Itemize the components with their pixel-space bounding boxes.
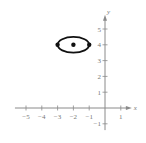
y-tick-label: 5 bbox=[98, 26, 102, 34]
y-tick-label: 3 bbox=[98, 57, 102, 65]
point-vertex-right bbox=[87, 43, 91, 47]
y-tick-label: 2 bbox=[98, 73, 102, 81]
x-tick-label: −2 bbox=[70, 113, 78, 121]
points bbox=[55, 43, 91, 47]
x-tick-label: −4 bbox=[38, 113, 46, 121]
tick-labels: −5−4−3−2−11−112345 bbox=[22, 26, 123, 129]
x-tick-label: 1 bbox=[119, 113, 123, 121]
x-axis-label: x bbox=[133, 104, 138, 112]
x-axis-arrow bbox=[126, 106, 132, 110]
x-tick-label: −3 bbox=[54, 113, 62, 121]
point-vertex-left bbox=[55, 43, 59, 47]
y-tick-label: −1 bbox=[94, 120, 102, 128]
y-axis-label: y bbox=[106, 8, 111, 16]
point-center bbox=[71, 43, 75, 47]
y-tick-label: 4 bbox=[98, 41, 102, 49]
x-tick-label: −1 bbox=[85, 113, 93, 121]
x-tick-label: −5 bbox=[22, 113, 30, 121]
chart: −5−4−3−2−11−112345 x y bbox=[0, 0, 146, 143]
y-tick-label: 1 bbox=[98, 89, 102, 97]
